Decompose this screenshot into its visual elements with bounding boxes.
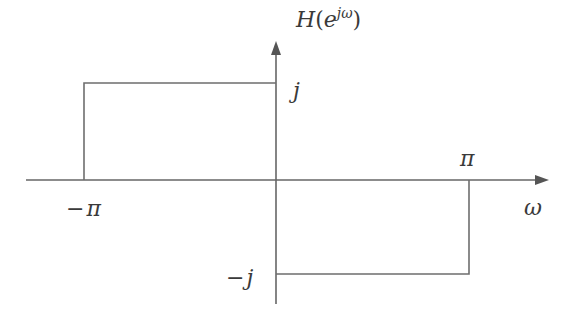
level-label-neg-j: −j	[226, 265, 253, 290]
magnitude-axis-arrowhead	[271, 41, 281, 55]
omega-axis-arrowhead	[535, 175, 549, 185]
level-label-j: j	[288, 78, 300, 103]
tick-label-neg-pi: −π	[66, 196, 101, 221]
frequency-response-diagram: H(ejω) j −j −π π ω	[0, 0, 570, 314]
response-title: H(ejω)	[295, 5, 361, 32]
omega-axis-label: ω	[524, 195, 542, 220]
response-segment-negative-j	[276, 180, 469, 274]
response-segment-positive-j	[84, 83, 276, 180]
tick-label-pi: π	[459, 146, 475, 171]
